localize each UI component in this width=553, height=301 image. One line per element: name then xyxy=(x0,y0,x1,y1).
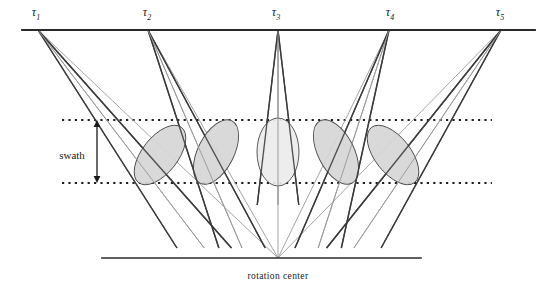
diagram-canvas: τ1τ2τ3τ4τ5 swath rotation center xyxy=(0,0,553,301)
tau-5-subscript: 5 xyxy=(500,13,504,22)
tau-4-subscript: 4 xyxy=(390,13,394,22)
diagram-svg: τ1τ2τ3τ4τ5 swath rotation center xyxy=(0,0,553,301)
tau-3-label: τ3 xyxy=(272,5,280,22)
swath-dimension-arrow xyxy=(94,120,101,183)
tau-5-label: τ5 xyxy=(496,5,504,22)
tau-4-label: τ4 xyxy=(386,5,394,22)
footprints-group xyxy=(124,113,428,194)
beam-5-left-edge-overlay xyxy=(327,30,501,248)
tau-2-label: τ2 xyxy=(143,5,151,22)
rotation-center-label: rotation center xyxy=(247,271,309,281)
station-labels-group: τ1τ2τ3τ4τ5 xyxy=(32,5,504,22)
tau-1-label: τ1 xyxy=(32,5,40,22)
swath-arrow-head-bottom xyxy=(94,176,101,183)
swath-arrow-head-top xyxy=(94,120,101,127)
tau-1-subscript: 1 xyxy=(36,13,40,22)
footprint-2 xyxy=(184,113,248,192)
tau-2-subscript: 2 xyxy=(147,13,151,22)
swath-label: swath xyxy=(59,149,85,161)
tau-3-subscript: 3 xyxy=(275,13,280,22)
